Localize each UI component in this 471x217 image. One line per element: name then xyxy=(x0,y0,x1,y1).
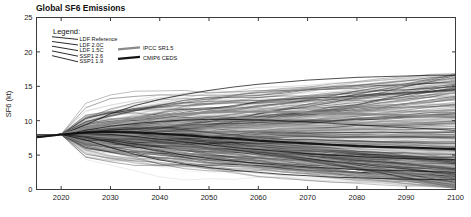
x-tick-label: 2050 xyxy=(201,193,218,202)
y-tick-label: 10 xyxy=(24,117,32,126)
legend-title: Legend: xyxy=(53,27,80,36)
y-axis-label: SF6 (kt) xyxy=(4,90,13,117)
y-tick-label: 15 xyxy=(24,82,32,91)
y-tick-label: 20 xyxy=(24,48,32,57)
x-tick-label: 2040 xyxy=(151,193,168,202)
y-tick-label: 25 xyxy=(24,13,32,22)
x-tick-label: 2100 xyxy=(447,193,464,202)
x-tick-label: 2070 xyxy=(299,193,316,202)
y-tick-label: 5 xyxy=(28,151,32,160)
x-tick-label: 2090 xyxy=(398,193,415,202)
legend-label: CMIP6 CEDS xyxy=(143,55,177,61)
chart-figure: Global SF6 Emissions SF6 (kt) 2020203020… xyxy=(0,0,471,217)
x-tick-label: 2060 xyxy=(250,193,267,202)
x-tick-label: 2030 xyxy=(102,193,119,202)
global-sf6-emissions-chart: Global SF6 Emissions SF6 (kt) 2020203020… xyxy=(0,0,471,217)
x-tick-label: 2020 xyxy=(53,193,70,202)
x-tick-label: 2080 xyxy=(349,193,366,202)
y-tick-label: 0 xyxy=(28,185,32,194)
legend-label: SSP1 1.9 xyxy=(80,58,104,64)
chart-title: Global SF6 Emissions xyxy=(36,3,126,13)
legend-label: IPCC SR1.5 xyxy=(143,45,173,51)
